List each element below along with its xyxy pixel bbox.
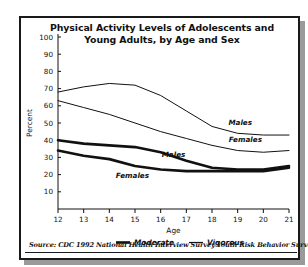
figure-inner: Physical Activity Levels of Adolescents …	[21, 18, 298, 258]
curve-label-females: Females	[229, 135, 263, 144]
y-tick-label: 100	[39, 33, 53, 42]
curve-label-males: Males	[228, 118, 252, 127]
x-tick-label: 16	[156, 215, 166, 224]
y-tick-label: 40	[44, 136, 54, 145]
y-tick-label: 80	[44, 67, 54, 76]
figure-root: Physical Activity Levels of Adolescents …	[0, 0, 308, 267]
figure-frame: Physical Activity Levels of Adolescents …	[19, 16, 300, 260]
x-tick-label: 21	[284, 215, 293, 224]
series-line-vigorous-males	[58, 83, 289, 135]
y-tick-label: 10	[44, 187, 54, 196]
curve-label-females: Females	[116, 171, 150, 180]
x-tick-label: 15	[130, 215, 139, 224]
x-axis-title: Age	[166, 226, 181, 235]
y-tick-label: 30	[44, 153, 54, 162]
x-tick-label: 12	[53, 215, 62, 224]
y-tick-label: 20	[44, 170, 54, 179]
x-tick-label: 19	[233, 215, 243, 224]
source-note: Source: CDC 1992 National Health Intervi…	[29, 241, 297, 249]
y-tick-label: 70	[44, 84, 54, 93]
x-tick-label: 20	[259, 215, 269, 224]
line-chart-plot: 102030405060708090100 121314151617181920…	[21, 18, 298, 258]
x-axis: 12131415161718192021	[53, 209, 293, 224]
y-axis: 102030405060708090100	[39, 33, 61, 209]
source-divider	[25, 252, 297, 253]
y-tick-label: 50	[44, 119, 54, 128]
x-tick-label: 17	[182, 215, 191, 224]
y-tick-label: 60	[44, 101, 54, 110]
x-tick-label: 18	[207, 215, 217, 224]
y-axis-title: Percent	[25, 109, 34, 137]
curve-label-males: Males	[162, 150, 186, 159]
x-tick-label: 14	[105, 215, 115, 224]
x-tick-label: 13	[79, 215, 88, 224]
y-tick-label: 90	[44, 50, 54, 59]
